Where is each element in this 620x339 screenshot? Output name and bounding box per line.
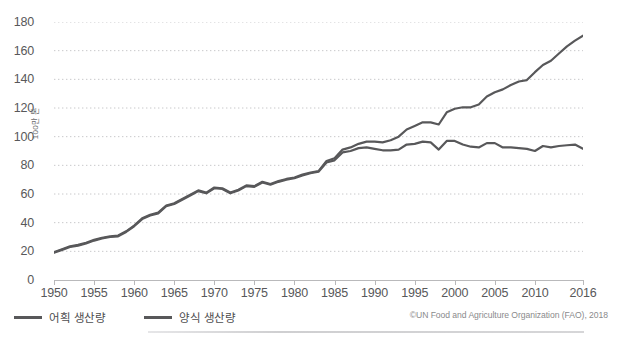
legend-label-aquaculture: 양식 생산량 [179,309,236,325]
y-tick-20: 20 [0,245,34,258]
x-tick-mark-2000 [455,280,456,285]
y-tick-180: 180 [0,16,34,29]
x-tick-mark-1970 [214,280,215,285]
chart-figure: 100만 톤 020406080100120140160180 19501955… [0,0,620,339]
source-attribution: ©UN Food and Agriculture Organization (F… [410,310,608,320]
x-tick-mark-1950 [54,280,55,285]
x-tick-mark-1980 [294,280,295,285]
chart-legend: 어획 생산량 양식 생산량 [14,309,236,325]
series-lines [54,36,583,253]
x-tick-mark-1960 [134,280,135,285]
x-tick-mark-2010 [535,280,536,285]
legend-item-aquaculture[interactable]: 양식 생산량 [144,309,236,325]
legend-label-capture: 어획 생산량 [49,309,106,325]
series-line-aquaculture [54,36,583,252]
line-chart-svg [54,22,583,280]
y-axis-title: 100만 톤 [29,84,40,164]
y-tick-80: 80 [0,159,34,172]
y-tick-0: 0 [0,274,34,287]
y-tick-120: 120 [0,102,34,115]
x-tick-mark-1975 [254,280,255,285]
gridlines [54,22,583,251]
x-tick-mark-2016 [583,280,584,285]
y-tick-60: 60 [0,188,34,201]
y-tick-160: 160 [0,44,34,57]
y-tick-100: 100 [0,130,34,143]
legend-swatch-capture [14,316,42,319]
x-tick-2010: 2010 [510,287,560,300]
plot-area [54,22,583,280]
x-tick-mark-1985 [335,280,336,285]
series-line-capture [54,141,583,253]
x-tick-mark-2005 [495,280,496,285]
x-tick-mark-1995 [415,280,416,285]
x-tick-mark-1990 [375,280,376,285]
x-tick-mark-1955 [94,280,95,285]
x-tick-2016: 2016 [558,287,608,300]
y-tick-140: 140 [0,73,34,86]
x-tick-mark-1965 [174,280,175,285]
footer-divider [148,331,584,333]
legend-item-capture[interactable]: 어획 생산량 [14,309,144,325]
y-tick-40: 40 [0,216,34,229]
legend-swatch-aquaculture [144,316,172,319]
